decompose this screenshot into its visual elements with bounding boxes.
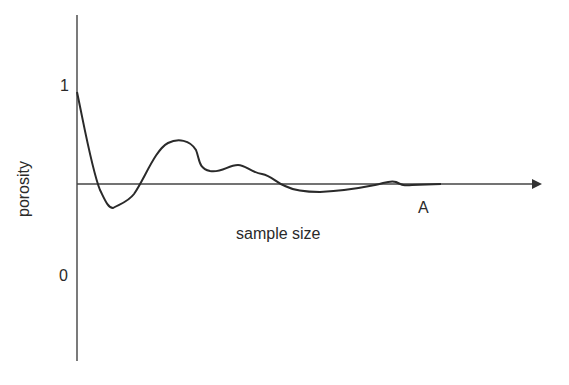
- y-axis-label: porosity: [16, 161, 32, 217]
- y-tick-1: 1: [60, 78, 69, 94]
- x-axis-label: sample size: [236, 226, 320, 242]
- porosity-curve: [77, 92, 441, 208]
- y-tick-0: 0: [59, 268, 68, 284]
- arrow-head-icon: [532, 179, 542, 189]
- point-a-label: A: [418, 200, 429, 216]
- porosity-diagram: [0, 0, 569, 385]
